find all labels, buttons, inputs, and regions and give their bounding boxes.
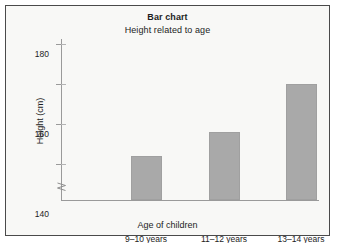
y-axis-tick-inner [61,44,66,45]
y-axis-tick-inner [61,164,66,165]
y-axis-tick-inner [61,124,66,125]
x-axis-title: Age of children [6,220,329,230]
x-axis-line [61,200,319,201]
y-axis-tick-inner [61,84,66,85]
chart-frame: Bar chart Height related to age Height (… [5,5,330,236]
x-axis-label: 13–14 years [278,234,325,243]
bar [286,84,317,200]
chart-title: Bar chart [6,12,329,22]
x-axis-label: 9–10 years [125,234,167,243]
y-axis-label: 140 [35,209,49,219]
plot-area: 120140160180 9–10 years11–12 years13–14 … [61,34,319,201]
x-axis-label: 11–12 years [201,234,247,243]
y-axis-label: 160 [35,129,49,139]
y-axis-line [61,39,62,201]
y-axis-label: 180 [35,49,49,59]
bar [131,156,162,200]
bar [209,132,240,200]
axis-break-icon [57,180,66,193]
